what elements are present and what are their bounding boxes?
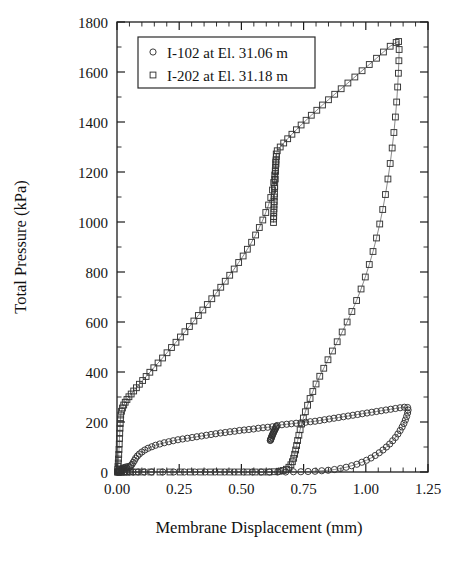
x-tick-label: 0.25	[166, 481, 192, 497]
y-axis-title: Total Pressure (kPa)	[11, 180, 30, 314]
x-tick-label: 0.50	[228, 481, 254, 497]
y-tick-label: 200	[86, 415, 109, 431]
x-tick-label: 0.75	[290, 481, 316, 497]
y-tick-label: 400	[86, 365, 109, 381]
pressure-displacement-chart: 0.000.250.500.751.001.25 020040060080010…	[0, 0, 453, 573]
y-tick-label: 600	[86, 315, 109, 331]
chart-legend: I-102 at El. 31.06 mI-202 at El. 31.18 m	[138, 37, 315, 88]
y-tick-label: 1200	[78, 165, 108, 181]
x-tick-label: 1.00	[353, 481, 379, 497]
x-tick-label: 1.25	[415, 481, 441, 497]
y-tick-label: 1800	[78, 15, 108, 31]
y-tick-label: 800	[86, 265, 109, 281]
legend-label: I-102 at El. 31.06 m	[167, 45, 288, 61]
y-tick-label: 1600	[78, 65, 108, 81]
x-tick-label: 0.00	[104, 481, 130, 497]
chart-figure: 0.000.250.500.751.001.25 020040060080010…	[0, 0, 453, 573]
x-axis-title: Membrane Displacement (mm)	[155, 518, 362, 537]
y-tick-label: 1000	[78, 215, 108, 231]
y-tick-label: 0	[101, 465, 109, 481]
legend-label: I-202 at El. 31.18 m	[167, 68, 288, 84]
y-tick-label: 1400	[78, 115, 108, 131]
